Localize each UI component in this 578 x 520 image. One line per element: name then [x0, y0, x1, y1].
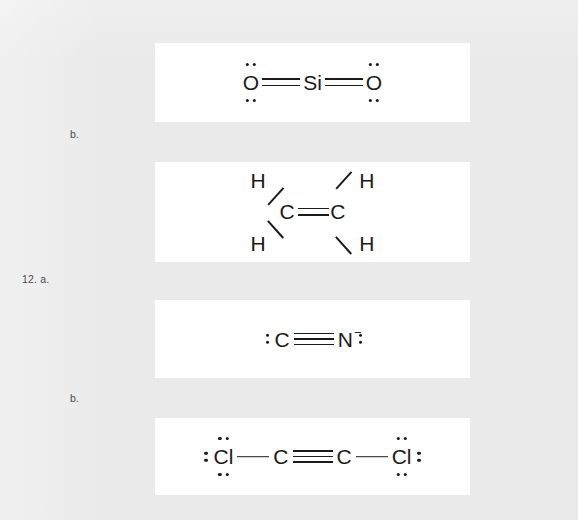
atom-hydrogen-bottom-right: H: [359, 233, 374, 254]
bond-ch-bottom-right: [335, 236, 352, 254]
atom-carbon-left-dca: C: [273, 446, 288, 467]
margin-label-12-a: 12. a.: [22, 273, 49, 285]
structure-panel-dichloroacetylene: Cl C C Cl: [155, 418, 470, 495]
atom-carbon-right-dca: C: [337, 446, 352, 467]
atom-oxygen-left: O: [243, 72, 259, 93]
margin-label-b-bottom: b.: [70, 392, 79, 404]
lone-pair-bottom-oxygen-left: [246, 99, 256, 102]
formula-cyanide: C N −: [265, 328, 361, 350]
lone-pair-top-oxygen-left: [246, 63, 256, 66]
margin-label-b-top: b.: [70, 128, 79, 140]
structure-panel-cyanide: C N −: [155, 300, 470, 378]
atom-carbon-right: C: [330, 201, 345, 222]
bond-triple-carbon-nitrogen: [294, 328, 334, 350]
lone-pair-top-oxygen-right: [369, 63, 379, 66]
formula-silicon-dioxide: O Si O: [243, 72, 382, 93]
atom-chlorine-left: Cl: [213, 446, 233, 467]
lone-pair-bottom-chlorine-left: [218, 473, 228, 476]
atom-chlorine-right: Cl: [392, 446, 412, 467]
lone-pair-top-chlorine-left: [218, 437, 228, 440]
atom-nitrogen: N: [338, 329, 353, 350]
bond-double-right: [325, 73, 363, 93]
atom-carbon-cyanide: C: [275, 329, 290, 350]
atom-oxygen-right: O: [366, 72, 382, 93]
bond-double-carbon-carbon: [298, 202, 329, 222]
atom-hydrogen-top-left: H: [251, 170, 266, 191]
formula-ethene: H H H H C C: [218, 170, 408, 254]
lone-pair-bottom-chlorine-right: [396, 473, 406, 476]
bond-ch-top-right: [335, 171, 352, 189]
lone-pair-top-chlorine-right: [396, 437, 406, 440]
structure-panel-silicon-dioxide: O Si O: [155, 43, 470, 122]
lone-pair-left-chlorine-left: [204, 451, 207, 461]
atom-silicon: Si: [303, 72, 322, 93]
formula-dichloroacetylene: Cl C C Cl: [203, 446, 421, 468]
bond-single-chlorine-carbon-right: [356, 447, 388, 467]
lone-pair-right-chlorine-right: [417, 451, 420, 461]
lone-pair-left-carbon: [266, 334, 269, 344]
lone-pair-bottom-oxygen-right: [369, 99, 379, 102]
atom-hydrogen-bottom-left: H: [251, 233, 266, 254]
bond-double-left: [262, 73, 300, 93]
bond-single-chlorine-carbon-left: [237, 447, 269, 467]
atom-carbon-left: C: [280, 201, 295, 222]
bond-triple-carbon-carbon: [293, 446, 333, 468]
structure-panel-ethene: H H H H C C: [155, 162, 470, 262]
atom-hydrogen-top-right: H: [359, 170, 374, 191]
charge-negative: −: [354, 325, 362, 340]
